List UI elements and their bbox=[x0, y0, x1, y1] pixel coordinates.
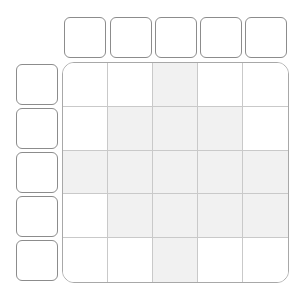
row-clue-box[interactable] bbox=[16, 64, 58, 105]
grid-cell[interactable] bbox=[198, 238, 243, 282]
column-clue-box[interactable] bbox=[64, 17, 106, 58]
grid-cell-shaded[interactable] bbox=[198, 107, 243, 151]
column-clue-box[interactable] bbox=[155, 17, 197, 58]
row-clue-box[interactable] bbox=[16, 108, 58, 149]
grid-cell[interactable] bbox=[108, 63, 153, 107]
grid-cell-shaded[interactable] bbox=[108, 151, 153, 195]
row-clue-box[interactable] bbox=[16, 240, 58, 281]
row-clue-box[interactable] bbox=[16, 152, 58, 193]
grid-cell-shaded[interactable] bbox=[243, 151, 288, 195]
grid-cell[interactable] bbox=[63, 194, 108, 238]
row-clue-box[interactable] bbox=[16, 196, 58, 237]
grid-cell-shaded[interactable] bbox=[63, 151, 108, 195]
grid-cell[interactable] bbox=[63, 63, 108, 107]
grid-cell-shaded[interactable] bbox=[153, 151, 198, 195]
grid-cell-shaded[interactable] bbox=[153, 107, 198, 151]
grid-cell-shaded[interactable] bbox=[108, 107, 153, 151]
grid-cell[interactable] bbox=[243, 63, 288, 107]
grid-cell-shaded[interactable] bbox=[198, 194, 243, 238]
grid-cell[interactable] bbox=[243, 238, 288, 282]
grid-cell-shaded[interactable] bbox=[243, 194, 288, 238]
grid-cell-shaded[interactable] bbox=[108, 194, 153, 238]
grid-cell-shaded[interactable] bbox=[153, 63, 198, 107]
column-clue-box[interactable] bbox=[110, 17, 152, 58]
grid-cell-shaded[interactable] bbox=[198, 151, 243, 195]
puzzle-grid bbox=[62, 62, 289, 283]
grid-cell[interactable] bbox=[63, 107, 108, 151]
column-clue-box[interactable] bbox=[245, 17, 287, 58]
grid-cell-shaded[interactable] bbox=[153, 238, 198, 282]
grid-cell[interactable] bbox=[63, 238, 108, 282]
grid-cell[interactable] bbox=[243, 107, 288, 151]
grid-cell-shaded[interactable] bbox=[153, 194, 198, 238]
grid-cell[interactable] bbox=[108, 238, 153, 282]
grid-cell[interactable] bbox=[198, 63, 243, 107]
column-clue-box[interactable] bbox=[200, 17, 242, 58]
